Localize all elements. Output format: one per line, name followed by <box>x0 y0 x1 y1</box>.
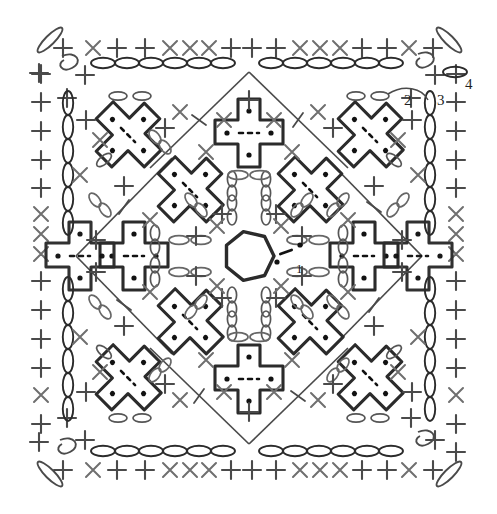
label-round-1: 1 <box>296 261 303 276</box>
label-round-2: 2 <box>404 92 412 108</box>
label-round-4: 4 <box>465 76 473 92</box>
crochet-chart-root: 1 2 3 4 <box>0 0 497 514</box>
crochet-chart-canvas: 1 2 3 4 <box>0 0 497 514</box>
label-round-3: 3 <box>437 92 445 108</box>
